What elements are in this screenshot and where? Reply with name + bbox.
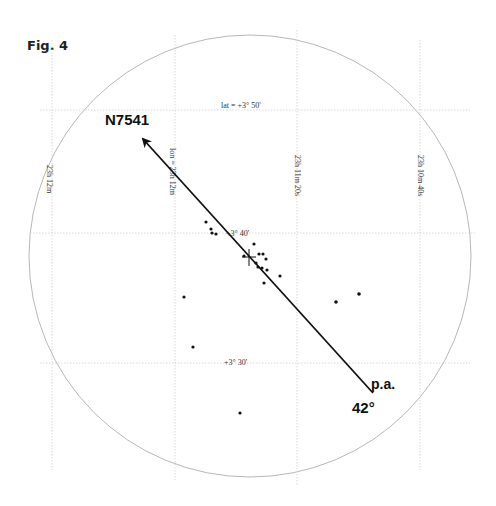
- target-label: N7541: [105, 111, 149, 128]
- pa-label: p.a.: [371, 376, 395, 392]
- pa-value: 42°: [352, 399, 375, 416]
- lon-label-far-left: 23h 12m: [45, 165, 54, 194]
- lon-label-center: 23h 11m 20s: [293, 155, 302, 196]
- lat-label-top: lat = +3° 50': [221, 101, 261, 110]
- lat-label-bottom: +3° 30': [224, 358, 248, 367]
- sky-field-chart: lat = +3° 50' +3° 40' +3° 30' 23h 12m lo…: [0, 0, 496, 506]
- lon-label-right: 23h 10m 40s: [416, 155, 425, 196]
- star-points: [182, 220, 360, 414]
